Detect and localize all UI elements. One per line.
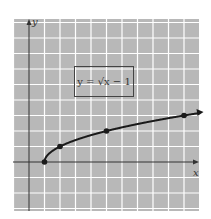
chart-plot: xy — [0, 0, 211, 219]
equation-label: y = √x − 1 — [77, 76, 131, 87]
data-point — [104, 128, 110, 134]
curve-arrow-icon — [197, 109, 204, 116]
y-axis-label: y — [31, 16, 38, 27]
x-axis-label: x — [193, 167, 199, 178]
data-point — [57, 144, 63, 150]
data-point — [181, 113, 187, 119]
data-point — [42, 159, 48, 165]
equation-label-box: y = √x − 1 — [74, 66, 134, 97]
